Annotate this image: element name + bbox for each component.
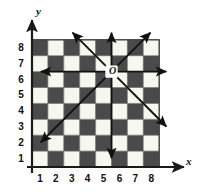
x-tick-label: 6 bbox=[113, 174, 125, 184]
grid-cell bbox=[96, 135, 112, 151]
grid-cell bbox=[96, 40, 112, 56]
grid-cell bbox=[127, 119, 143, 135]
grid-cell bbox=[48, 88, 64, 104]
grid-cell bbox=[80, 151, 96, 167]
grid-cell bbox=[143, 151, 159, 167]
grid-cell bbox=[64, 72, 80, 88]
grid-cell bbox=[48, 135, 64, 151]
grid-cell bbox=[32, 119, 48, 135]
grid-cell bbox=[80, 72, 96, 88]
grid-cell bbox=[127, 72, 143, 88]
grid-cell bbox=[143, 56, 159, 72]
x-tick-label: 8 bbox=[145, 174, 157, 184]
grid-cell bbox=[32, 88, 48, 104]
grid-cell bbox=[112, 40, 128, 56]
grid-cell bbox=[112, 151, 128, 167]
grid-cell bbox=[48, 72, 64, 88]
grid-cell bbox=[80, 119, 96, 135]
x-axis-label: x bbox=[186, 156, 192, 167]
grid-cell bbox=[96, 103, 112, 119]
grid-cell bbox=[64, 88, 80, 104]
y-tick-label: 4 bbox=[15, 106, 27, 116]
y-tick-label: 2 bbox=[15, 138, 27, 148]
grid-cell bbox=[80, 135, 96, 151]
grid-cell bbox=[32, 40, 48, 56]
grid-cell bbox=[32, 151, 48, 167]
grid-cell bbox=[112, 103, 128, 119]
grid-cell bbox=[80, 56, 96, 72]
grid-cell bbox=[112, 135, 128, 151]
grid-cell bbox=[32, 103, 48, 119]
coordinate-grid-figure: y x 12345678 12345678 O bbox=[0, 0, 198, 194]
y-tick-label: 5 bbox=[15, 90, 27, 100]
grid-cell bbox=[143, 88, 159, 104]
x-tick-label: 4 bbox=[82, 174, 94, 184]
origin-point-label: O bbox=[109, 66, 116, 76]
x-tick-label: 1 bbox=[34, 174, 46, 184]
grid-cell bbox=[96, 88, 112, 104]
grid-cell bbox=[48, 103, 64, 119]
grid-cell bbox=[64, 56, 80, 72]
grid-cell bbox=[64, 151, 80, 167]
x-tick-label: 5 bbox=[98, 174, 110, 184]
grid-cell bbox=[143, 72, 159, 88]
figure-canvas bbox=[0, 0, 198, 194]
y-tick-label: 8 bbox=[15, 43, 27, 53]
grid-cell bbox=[96, 151, 112, 167]
grid-cell bbox=[64, 135, 80, 151]
grid-cell bbox=[96, 119, 112, 135]
grid-cell bbox=[143, 119, 159, 135]
grid-cell bbox=[80, 103, 96, 119]
grid-cell bbox=[143, 135, 159, 151]
grid-cell bbox=[64, 40, 80, 56]
y-tick-label: 1 bbox=[15, 154, 27, 164]
grid-cell bbox=[143, 40, 159, 56]
y-axis-label: y bbox=[36, 6, 41, 17]
grid-cell bbox=[32, 56, 48, 72]
grid-cell bbox=[127, 151, 143, 167]
grid-cell bbox=[127, 135, 143, 151]
grid-cell bbox=[48, 151, 64, 167]
x-tick-label: 3 bbox=[66, 174, 78, 184]
x-tick-label: 2 bbox=[50, 174, 62, 184]
grid-cell bbox=[32, 72, 48, 88]
y-tick-label: 7 bbox=[15, 59, 27, 69]
grid-cell bbox=[48, 40, 64, 56]
grid-cell bbox=[64, 119, 80, 135]
grid-cell bbox=[127, 56, 143, 72]
x-tick-label: 7 bbox=[129, 174, 141, 184]
y-tick-label: 6 bbox=[15, 75, 27, 85]
grid-cell bbox=[127, 103, 143, 119]
grid-cell bbox=[112, 119, 128, 135]
grid-cell bbox=[112, 88, 128, 104]
y-tick-label: 3 bbox=[15, 122, 27, 132]
grid-cell bbox=[48, 56, 64, 72]
